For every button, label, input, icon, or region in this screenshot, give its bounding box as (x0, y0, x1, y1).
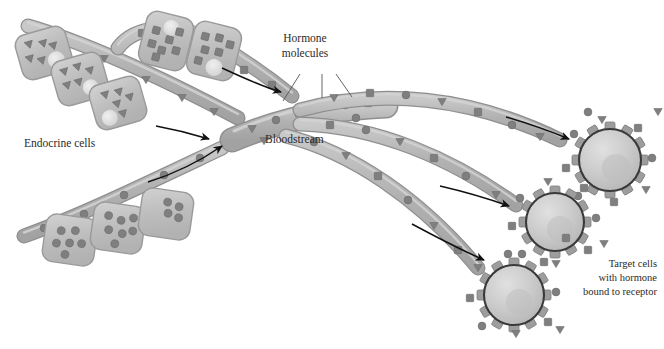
label-target-line1: Target cells (609, 258, 657, 269)
label-hormone-molecules-line2: molecules (282, 47, 329, 59)
label-endocrine-cells: Endocrine cells (24, 137, 96, 149)
label-target-line2: with hormone (598, 272, 657, 283)
label-bloodstream: Bloodstream (265, 133, 324, 145)
diagram-canvas: Endocrine cells Hormone molecules Bloods… (0, 0, 664, 349)
nucleus (602, 154, 630, 182)
endocrine-signaling-diagram: Endocrine cells Hormone molecules Bloods… (0, 0, 664, 349)
nucleus (506, 289, 532, 315)
label-hormone-molecules-line1: Hormone (283, 32, 326, 44)
endocrine-cell (137, 187, 195, 242)
label-target-line3: bound to receptor (583, 286, 658, 297)
